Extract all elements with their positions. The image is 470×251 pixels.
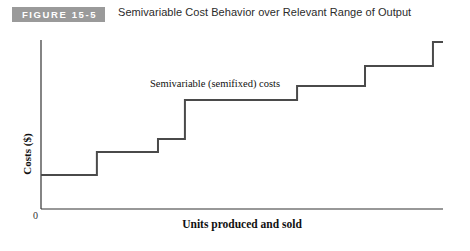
series-annotation-label: Semivariable (semifixed) costs	[150, 78, 280, 89]
figure-title: Semivariable Cost Behavior over Relevant…	[118, 6, 411, 18]
figure-header: FIGURE 15-5 Semivariable Cost Behavior o…	[0, 0, 470, 30]
x-axis-label: Units produced and sold	[41, 218, 443, 230]
step-cost-series	[41, 42, 443, 175]
y-axis-label: Costs ($)	[21, 119, 33, 189]
origin-label: 0	[33, 210, 38, 221]
chart-plot-area: Costs ($) Units produced and sold 0 Semi…	[0, 30, 470, 251]
figure-container: FIGURE 15-5 Semivariable Cost Behavior o…	[0, 0, 470, 251]
figure-number-badge: FIGURE 15-5	[12, 7, 105, 22]
